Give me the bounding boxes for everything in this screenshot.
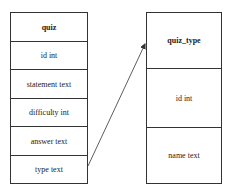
relation-edges	[0, 0, 232, 196]
relation-arrow-quiz-type	[88, 44, 145, 166]
